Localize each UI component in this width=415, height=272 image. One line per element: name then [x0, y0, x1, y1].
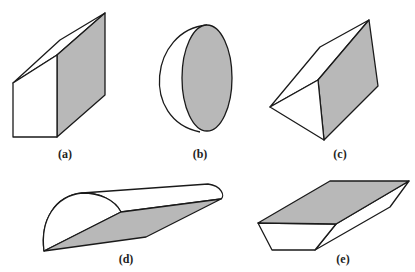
figure-canvas: [0, 0, 415, 272]
shape-b-shaded-face: [182, 25, 232, 131]
shape-b: [159, 25, 232, 132]
label-c: (c): [333, 147, 346, 162]
shape-c: [270, 20, 378, 140]
shape-a: [13, 13, 105, 137]
shape-d: [43, 184, 222, 251]
label-d: (d): [119, 252, 134, 267]
shape-e: [258, 181, 409, 250]
label-e: (e): [336, 252, 349, 267]
shape-e-front-face: [258, 223, 336, 250]
label-a: (a): [58, 147, 72, 162]
label-b: (b): [193, 147, 208, 162]
